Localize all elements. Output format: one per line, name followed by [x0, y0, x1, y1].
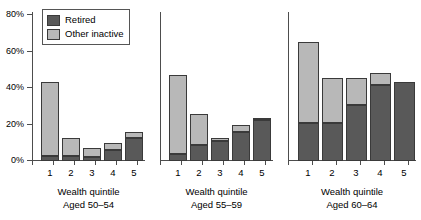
x-tick-mark	[223, 161, 224, 165]
panel-2-xlabel: Wealth quintile	[321, 186, 383, 197]
x-tick-mark	[137, 161, 138, 165]
bar-quintile-5	[125, 132, 143, 161]
bar-segment-other-inactive	[346, 78, 367, 105]
bar-segment-other-inactive	[169, 75, 187, 154]
x-tick-mark	[360, 161, 361, 165]
panel-1-y-axis-line	[160, 12, 161, 161]
bar-segment-retired	[83, 157, 101, 161]
bar-segment-retired	[62, 156, 80, 161]
x-tick-mark	[265, 161, 266, 165]
panel-1-age-group: Aged 55–59	[160, 198, 273, 211]
bar-segment-other-inactive	[298, 42, 319, 123]
x-tick-label-1: 1	[299, 168, 317, 178]
bar-quintile-1	[298, 42, 319, 161]
bar-segment-other-inactive	[190, 114, 208, 145]
x-tick-mark	[74, 161, 75, 165]
bar-segment-retired	[394, 82, 415, 161]
x-tick-label-3: 3	[83, 168, 101, 178]
bar-quintile-1	[41, 82, 59, 161]
x-tick-label-4: 4	[104, 168, 122, 178]
bar-segment-other-inactive	[370, 73, 391, 86]
bar-quintile-4	[104, 143, 122, 161]
bar-quintile-5	[394, 82, 415, 161]
x-tick-mark	[53, 161, 54, 165]
chart-legend: Retired Other inactive	[42, 9, 130, 45]
bar-segment-other-inactive	[104, 143, 122, 150]
y-tick-label-60: 60%	[6, 46, 24, 55]
bar-quintile-4	[370, 73, 391, 161]
bar-segment-other-inactive	[41, 82, 59, 156]
x-tick-label-1: 1	[41, 168, 59, 178]
legend-swatch-retired-icon	[47, 15, 60, 26]
bar-quintile-2	[62, 138, 80, 161]
panel-2-y-axis-line	[288, 12, 289, 161]
x-tick-mark	[384, 161, 385, 165]
bar-quintile-3	[346, 78, 367, 161]
y-tick-label-0: 0%	[11, 156, 24, 165]
bar-segment-other-inactive	[83, 148, 101, 157]
bar-quintile-5	[253, 118, 271, 161]
x-tick-label-4: 4	[371, 168, 389, 178]
bar-segment-retired	[190, 145, 208, 161]
bar-segment-retired	[322, 123, 343, 161]
bar-quintile-2	[322, 78, 343, 161]
legend-label-retired: Retired	[65, 15, 96, 25]
panel-0-y-axis-line	[32, 12, 33, 161]
bar-segment-retired	[253, 120, 271, 161]
panel-1-caption: Wealth quintile Aged 55–59	[160, 185, 273, 211]
x-tick-mark	[181, 161, 182, 165]
panel-aged-60-64: 1 2 3 4 5 Wealth quintile Aged 60–64	[288, 0, 416, 220]
x-tick-label-5: 5	[253, 168, 271, 178]
panel-aged-55-59: 1 2 3 4 5 Wealth quintile Aged 55–59	[160, 0, 273, 220]
y-tick-label-20: 20%	[6, 119, 24, 128]
legend-swatch-other-inactive-icon	[47, 29, 60, 40]
bar-quintile-2	[190, 114, 208, 161]
bar-segment-retired	[104, 150, 122, 161]
x-tick-label-3: 3	[347, 168, 365, 178]
panel-0-xlabel: Wealth quintile	[57, 186, 119, 197]
x-tick-label-2: 2	[62, 168, 80, 178]
x-tick-label-2: 2	[323, 168, 341, 178]
bar-segment-retired	[346, 105, 367, 161]
x-tick-mark	[312, 161, 313, 165]
x-tick-label-4: 4	[232, 168, 250, 178]
bar-segment-retired	[298, 123, 319, 161]
x-tick-label-3: 3	[211, 168, 229, 178]
bar-segment-retired	[125, 138, 143, 161]
panel-0-age-group: Aged 50–54	[32, 198, 145, 211]
x-tick-mark	[95, 161, 96, 165]
y-tick-label-80: 80%	[6, 10, 24, 19]
x-tick-mark	[202, 161, 203, 165]
bar-quintile-1	[169, 75, 187, 161]
panel-0-caption: Wealth quintile Aged 50–54	[32, 185, 145, 211]
bar-segment-retired	[211, 141, 229, 161]
bar-segment-other-inactive	[62, 138, 80, 156]
x-tick-mark	[244, 161, 245, 165]
bar-segment-retired	[232, 132, 250, 161]
bar-quintile-4	[232, 125, 250, 161]
bar-quintile-3	[211, 138, 229, 161]
bar-segment-retired	[41, 156, 59, 161]
legend-entry-retired: Retired	[47, 13, 124, 27]
x-tick-mark	[288, 161, 289, 165]
bar-segment-retired	[169, 154, 187, 161]
x-tick-label-5: 5	[395, 168, 413, 178]
x-tick-mark	[160, 161, 161, 165]
legend-label-other-inactive: Other inactive	[65, 29, 124, 39]
panel-2-age-group: Aged 60–64	[288, 198, 416, 211]
panel-1-xlabel: Wealth quintile	[185, 186, 247, 197]
bar-quintile-3	[83, 148, 101, 161]
x-tick-mark	[32, 161, 33, 165]
x-tick-mark	[408, 161, 409, 165]
x-tick-label-2: 2	[190, 168, 208, 178]
x-tick-mark	[336, 161, 337, 165]
chart-figure: 80% 60% 40% 20% 0%	[0, 0, 421, 220]
y-tick-label-40: 40%	[6, 83, 24, 92]
panel-2-caption: Wealth quintile Aged 60–64	[288, 185, 416, 211]
x-tick-mark	[116, 161, 117, 165]
y-axis: 80% 60% 40% 20% 0%	[0, 0, 32, 175]
bar-segment-other-inactive	[322, 78, 343, 123]
bar-segment-retired	[370, 85, 391, 161]
x-tick-label-5: 5	[125, 168, 143, 178]
x-tick-label-1: 1	[169, 168, 187, 178]
